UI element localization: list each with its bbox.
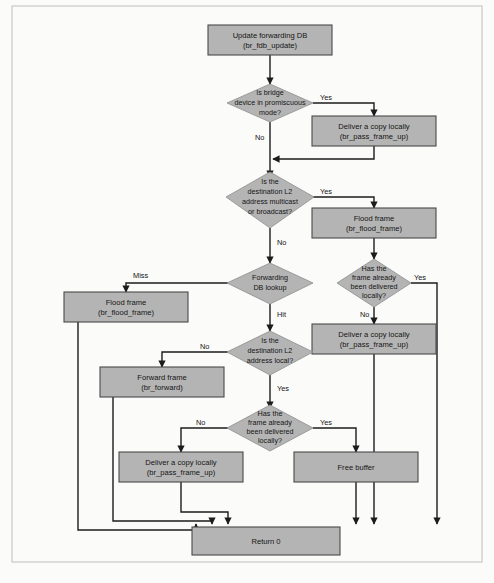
edge-label-lookup-hit: Hit: [277, 310, 286, 319]
edge-label-promiscuous-no: No: [255, 133, 264, 142]
edge-label-delivered2-no: No: [196, 418, 205, 427]
node-free-buffer: Free buffer: [294, 452, 418, 482]
node-forward-frame-line1: Forward frame: [137, 373, 186, 382]
node-deliver-copy-1: Deliver a copy locally (br_pass_frame_up…: [312, 116, 436, 146]
node-promiscuous-decision-line1: Is bridge: [256, 88, 284, 97]
node-flood-frame-left-line2: (br_flood_frame): [98, 308, 155, 317]
edge-label-lookup-miss: Miss: [133, 271, 148, 280]
edge-label-mcast-no: No: [277, 238, 286, 247]
node-forward-frame: Forward frame (br_forward): [100, 367, 224, 397]
node-delivered-locally-decision-1-line4: locally?: [362, 291, 386, 300]
flowchart-figure: Update forwarding DB (br_fdb_update) Is …: [0, 0, 494, 583]
node-destination-local-decision-line2: destination L2: [248, 346, 293, 355]
node-delivered-locally-decision-1-line2: frame already: [352, 273, 396, 282]
node-flood-frame-right-line2: (br_flood_frame): [346, 224, 403, 233]
node-forwarding-db-lookup-decision-line1: Forwarding: [252, 273, 288, 282]
node-deliver-copy-1-line2: (br_pass_frame_up): [340, 132, 409, 141]
node-update-forwarding-db-line1: Update forwarding DB: [233, 31, 308, 40]
node-return-zero: Return 0: [192, 527, 340, 555]
edge-label-dest-local-no: No: [200, 342, 209, 351]
node-delivered-locally-decision-1-line1: Has the: [362, 264, 387, 273]
edge-label-delivered1-no: No: [360, 310, 369, 319]
node-destination-local-decision-line1: Is the: [261, 336, 279, 345]
node-destination-local-decision-line3: address local?: [247, 356, 293, 365]
node-delivered-locally-decision-2-line3: been delivered: [246, 427, 293, 436]
node-promiscuous-decision-line2: device in promiscuous: [234, 98, 306, 107]
node-multicast-broadcast-decision-line1: Is the: [261, 177, 279, 186]
edge-label-delivered1-yes: Yes: [414, 273, 426, 282]
edge-label-promiscuous-yes: Yes: [320, 93, 332, 102]
node-deliver-copy-3-line2: (br_pass_frame_up): [147, 468, 216, 477]
node-return-zero-line1: Return 0: [251, 537, 280, 546]
node-multicast-broadcast-decision-line3: address multicast: [242, 197, 298, 206]
node-delivered-locally-decision-2-line4: locally?: [258, 436, 282, 445]
node-delivered-locally-decision-1-line3: been delivered: [350, 282, 397, 291]
node-flood-frame-right-line1: Flood frame: [354, 214, 395, 223]
node-deliver-copy-3-line1: Deliver a copy locally: [145, 458, 217, 467]
node-forward-frame-line2: (br_forward): [141, 383, 183, 392]
node-multicast-broadcast-decision-line4: or broadcast?: [248, 207, 292, 216]
node-forwarding-db-lookup-decision-line2: DB lookup: [253, 283, 286, 292]
node-deliver-copy-2: Deliver a copy locally (br_pass_frame_up…: [312, 324, 436, 354]
node-flood-frame-right: Flood frame (br_flood_frame): [312, 208, 436, 238]
node-delivered-locally-decision-2-line1: Has the: [258, 409, 283, 418]
node-promiscuous-decision-line3: mode?: [259, 108, 281, 117]
node-deliver-copy-2-line1: Deliver a copy locally: [338, 330, 410, 339]
node-delivered-locally-decision-2-line2: frame already: [248, 418, 292, 427]
edge-label-dest-local-yes: Yes: [277, 384, 289, 393]
node-free-buffer-line1: Free buffer: [337, 463, 374, 472]
node-deliver-copy-2-line2: (br_pass_frame_up): [340, 340, 409, 349]
edge-label-delivered2-yes: Yes: [320, 418, 332, 427]
node-update-forwarding-db-line2: (br_fdb_update): [243, 41, 298, 50]
node-deliver-copy-1-line1: Deliver a copy locally: [338, 122, 410, 131]
edge-label-mcast-yes: Yes: [320, 187, 332, 196]
node-deliver-copy-3: Deliver a copy locally (br_pass_frame_up…: [119, 452, 243, 482]
flowchart-canvas: Update forwarding DB (br_fdb_update) Is …: [0, 0, 494, 583]
node-flood-frame-left: Flood frame (br_flood_frame): [64, 292, 188, 322]
node-flood-frame-left-line1: Flood frame: [106, 298, 147, 307]
node-update-forwarding-db: Update forwarding DB (br_fdb_update): [208, 25, 332, 55]
node-multicast-broadcast-decision-line2: destination L2: [248, 187, 293, 196]
